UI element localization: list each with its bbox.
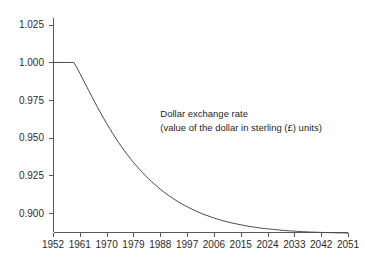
- annotation-group: Dollar exchange rate(value of the dollar…: [160, 108, 322, 133]
- y-tick-group: 0.9000.9250.9500.9751.0001.025: [19, 19, 54, 218]
- y-tick-label: 0.950: [19, 132, 44, 143]
- x-tick-label: 1979: [122, 239, 145, 250]
- x-tick-label: 2033: [283, 239, 306, 250]
- x-axis: 1952196119701979198819972006201520242033…: [42, 233, 360, 251]
- series-line-dollar-exchange-rate: [53, 62, 348, 233]
- x-tick-label: 1961: [69, 239, 92, 250]
- chart-canvas: 0.9000.9250.9500.9751.0001.025 195219611…: [0, 0, 365, 261]
- x-tick-label: 2015: [230, 239, 253, 250]
- x-tick-label: 1952: [42, 239, 65, 250]
- y-tick-label: 1.000: [19, 57, 44, 68]
- y-axis: 0.9000.9250.9500.9751.0001.025: [19, 18, 54, 232]
- y-tick-label: 1.025: [19, 19, 44, 30]
- annotation-line-2: (value of the dollar in sterling (£) uni…: [160, 122, 322, 133]
- annotation-line-1: Dollar exchange rate: [160, 108, 248, 119]
- y-tick-label: 0.900: [19, 208, 44, 219]
- data-series-group: [53, 62, 348, 233]
- dollar-exchange-rate-chart: 0.9000.9250.9500.9751.0001.025 195219611…: [0, 0, 365, 261]
- x-tick-label: 2042: [310, 239, 333, 250]
- x-tick-group: 1952196119701979198819972006201520242033…: [42, 233, 360, 251]
- x-tick-label: 1970: [96, 239, 119, 250]
- x-tick-label: 2051: [337, 239, 360, 250]
- x-tick-label: 2024: [256, 239, 279, 250]
- x-tick-label: 1988: [149, 239, 172, 250]
- y-tick-label: 0.925: [19, 170, 44, 181]
- y-tick-label: 0.975: [19, 95, 44, 106]
- x-tick-label: 2006: [203, 239, 226, 250]
- x-tick-label: 1997: [176, 239, 199, 250]
